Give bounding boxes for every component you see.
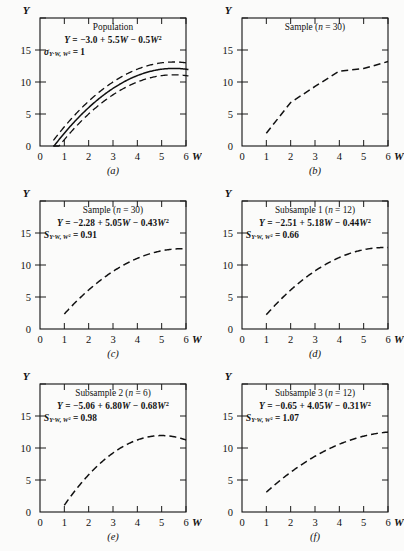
panel-annotation: Sample (n = 30) bbox=[246, 22, 384, 34]
panel-e: 0123456051015YW(e)Subsample 2 (n = 6)Y =… bbox=[0, 366, 202, 550]
panel-annotation: Subsample 3 (n = 12)Y = −0.65 + 4.05W − … bbox=[246, 388, 384, 425]
regression-equation: Y = −2.28 + 5.05W − 0.43W2 bbox=[44, 217, 182, 230]
regression-curve bbox=[64, 249, 186, 314]
x-tick-label: 3 bbox=[110, 517, 115, 528]
y-tick-label: 15 bbox=[21, 45, 32, 56]
dispersion-statistic: SY·W, W2 = 0.98 bbox=[44, 413, 182, 425]
x-tick-label: 6 bbox=[385, 517, 390, 528]
panel-title: Subsample 3 (n = 12) bbox=[246, 388, 384, 400]
x-tick-label: 6 bbox=[183, 151, 188, 162]
x-tick-label: 3 bbox=[110, 334, 115, 345]
x-tick-label: 1 bbox=[264, 151, 269, 162]
regression-curve bbox=[53, 68, 188, 146]
regression-figure: 0123456051015YW(a)PopulationY = −3.0 + 5… bbox=[0, 0, 404, 551]
y-tick-label: 15 bbox=[223, 45, 234, 56]
y-axis-label: Y bbox=[23, 370, 31, 382]
x-tick-label: 2 bbox=[288, 517, 293, 528]
regression-curve bbox=[266, 247, 388, 314]
y-tick-label: 5 bbox=[26, 109, 31, 120]
y-tick-label: 0 bbox=[26, 507, 31, 518]
panel-annotation: PopulationY = −3.0 + 5.5W − 0.5W2σY·W, W… bbox=[44, 22, 182, 59]
x-tick-label: 5 bbox=[361, 334, 366, 345]
x-tick-label: 4 bbox=[135, 334, 141, 345]
x-tick-label: 5 bbox=[159, 151, 164, 162]
panel-title: Subsample 1 (n = 12) bbox=[246, 205, 384, 217]
x-tick-label: 0 bbox=[37, 334, 42, 345]
panel-annotation: Subsample 1 (n = 12)Y = −2.51 + 5.18W − … bbox=[246, 205, 384, 242]
panel-title: Subsample 2 (n = 6) bbox=[44, 388, 182, 400]
x-tick-label: 6 bbox=[385, 334, 390, 345]
panel-annotation: Subsample 2 (n = 6)Y = −5.06 + 6.80W − 0… bbox=[44, 388, 182, 425]
regression-equation: Y = −3.0 + 5.5W − 0.5W2 bbox=[44, 34, 182, 47]
x-tick-label: 3 bbox=[110, 151, 115, 162]
panel-c: 0123456051015YW(c)Sample (n = 30)Y = −2.… bbox=[0, 183, 202, 367]
x-tick-label: 6 bbox=[183, 334, 188, 345]
plot-frame bbox=[242, 18, 388, 146]
panel-letter: (d) bbox=[309, 348, 322, 360]
regression-curve bbox=[64, 436, 186, 506]
x-tick-label: 6 bbox=[385, 151, 390, 162]
y-tick-label: 10 bbox=[223, 260, 234, 271]
x-tick-label: 4 bbox=[135, 151, 141, 162]
panel-title: Sample (n = 30) bbox=[246, 22, 384, 34]
x-tick-label: 5 bbox=[159, 517, 164, 528]
x-tick-label: 6 bbox=[183, 517, 188, 528]
y-tick-label: 15 bbox=[223, 411, 234, 422]
y-axis-label: Y bbox=[225, 370, 233, 382]
panel-title: Population bbox=[44, 22, 182, 34]
x-tick-label: 1 bbox=[62, 517, 67, 528]
y-tick-label: 15 bbox=[21, 411, 32, 422]
y-tick-label: 15 bbox=[223, 228, 234, 239]
x-tick-label: 2 bbox=[86, 334, 91, 345]
y-tick-label: 5 bbox=[26, 292, 31, 303]
panel-a: 0123456051015YW(a)PopulationY = −3.0 + 5… bbox=[0, 0, 202, 184]
x-tick-label: 0 bbox=[239, 517, 244, 528]
panel-letter: (b) bbox=[309, 165, 322, 177]
panel-annotation: Sample (n = 30)Y = −2.28 + 5.05W − 0.43W… bbox=[44, 205, 182, 242]
x-tick-label: 0 bbox=[37, 517, 42, 528]
x-tick-label: 2 bbox=[288, 151, 293, 162]
panel-letter: (a) bbox=[107, 165, 120, 177]
x-tick-label: 0 bbox=[37, 151, 42, 162]
x-tick-label: 0 bbox=[239, 151, 244, 162]
regression-equation: Y = −2.51 + 5.18W − 0.44W2 bbox=[246, 217, 384, 230]
y-tick-label: 0 bbox=[228, 324, 233, 335]
y-axis-label: Y bbox=[225, 4, 233, 16]
x-axis-label: W bbox=[192, 150, 202, 162]
sample-polyline bbox=[266, 62, 388, 134]
x-tick-label: 3 bbox=[312, 334, 317, 345]
x-tick-label: 5 bbox=[361, 151, 366, 162]
y-axis-label: Y bbox=[225, 187, 233, 199]
dispersion-statistic: σY·W, W2 = 1 bbox=[44, 47, 182, 59]
regression-equation: Y = −5.06 + 6.80W − 0.68W2 bbox=[44, 400, 182, 413]
y-tick-label: 10 bbox=[223, 77, 234, 88]
x-tick-label: 3 bbox=[312, 151, 317, 162]
y-tick-label: 5 bbox=[26, 475, 31, 486]
y-tick-label: 10 bbox=[21, 443, 32, 454]
regression-equation: Y = −0.65 + 4.05W − 0.31W2 bbox=[246, 400, 384, 413]
panel-letter: (f) bbox=[310, 531, 320, 543]
x-axis-label: W bbox=[394, 516, 404, 528]
panel-d: 0123456051015YW(d)Subsample 1 (n = 12)Y … bbox=[202, 183, 404, 367]
y-tick-label: 15 bbox=[21, 228, 32, 239]
x-tick-label: 1 bbox=[62, 334, 67, 345]
y-tick-label: 10 bbox=[21, 77, 32, 88]
y-tick-label: 0 bbox=[26, 141, 31, 152]
x-tick-label: 5 bbox=[361, 517, 366, 528]
panel-title: Sample (n = 30) bbox=[44, 205, 182, 217]
x-tick-label: 2 bbox=[288, 334, 293, 345]
y-tick-label: 0 bbox=[26, 324, 31, 335]
panel-f: 0123456051015YW(f)Subsample 3 (n = 12)Y … bbox=[202, 366, 404, 550]
dispersion-statistic: SY·W, W2 = 1.07 bbox=[246, 413, 384, 425]
y-tick-label: 0 bbox=[228, 507, 233, 518]
y-tick-label: 10 bbox=[21, 260, 32, 271]
x-axis-label: W bbox=[394, 150, 404, 162]
x-tick-label: 5 bbox=[159, 334, 164, 345]
regression-curve bbox=[266, 432, 388, 492]
panel-letter: (c) bbox=[107, 348, 119, 360]
x-tick-label: 4 bbox=[337, 151, 343, 162]
x-tick-label: 4 bbox=[135, 517, 141, 528]
y-tick-label: 10 bbox=[223, 443, 234, 454]
dispersion-statistic: SY·W, W2 = 0.91 bbox=[44, 230, 182, 242]
y-tick-label: 5 bbox=[228, 109, 233, 120]
